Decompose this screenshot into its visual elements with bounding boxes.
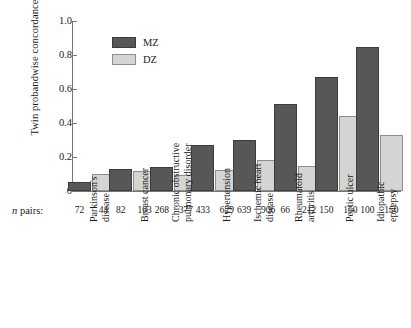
npairs-value: 433: [191, 205, 214, 215]
npairs-italic-n: n: [12, 205, 17, 216]
y-tick-label-wrap: 0.6: [40, 84, 72, 94]
category-label: epilepsy: [387, 112, 399, 222]
category-label: arthritis: [305, 112, 317, 222]
category-label: disease: [264, 112, 276, 222]
category-label: Peptic ulcer: [344, 112, 356, 222]
y-tick-label: 1.0: [46, 16, 72, 26]
category-label: Chronic obstructive: [170, 112, 182, 222]
y-tick-label-wrap: 1.0: [40, 16, 72, 26]
y-axis-label: Twin probandwise concordance: [29, 0, 40, 168]
y-tick-label-wrap: 0.8: [40, 50, 72, 60]
y-tick-label: 0.8: [46, 50, 72, 60]
category-label: Parkinson's: [88, 112, 100, 222]
category-label: disease: [100, 112, 112, 222]
npairs-row-label: n pairs:: [12, 205, 43, 216]
bar-mz: [315, 77, 338, 191]
category-label: pulmonary disorder: [182, 112, 194, 222]
twin-concordance-bar-chart: Twin probandwise concordance 00.20.40.60…: [0, 0, 411, 328]
y-tick-label-wrap: 0.2: [40, 152, 72, 162]
bar-mz: [191, 145, 214, 191]
y-tick-label: 0.2: [46, 152, 72, 162]
bar-mz: [109, 169, 132, 191]
category-label: Rheumatoid: [293, 112, 305, 222]
y-tick-label: 0.4: [46, 118, 72, 128]
category-label: Hypertension: [221, 112, 233, 222]
npairs-value: 150: [315, 205, 338, 215]
category-label: Idiopathic: [375, 112, 387, 222]
y-tick-label: 0.6: [46, 84, 72, 94]
category-label: Ischemic heart: [252, 112, 264, 222]
category-label: Breast cancer: [139, 112, 151, 222]
y-tick-label-wrap: 0.4: [40, 118, 72, 128]
npairs-value: 82: [109, 205, 132, 215]
